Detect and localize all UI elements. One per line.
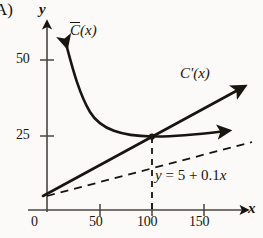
average-cost-symbol: C — [70, 23, 80, 38]
equation-variable: x — [220, 167, 227, 183]
average-cost-curve — [65, 40, 152, 137]
x-tick-label-100: 100 — [137, 215, 157, 229]
average-marginal-cost-figure: A) y x 50 — [0, 0, 263, 238]
average-cost-arg: (x) — [80, 22, 97, 38]
x-tick-label-0: 0 — [31, 215, 38, 229]
x-axis-label: x — [248, 201, 256, 216]
intersection-point-marker — [149, 133, 155, 139]
x-tick-label-150: 150 — [189, 215, 209, 229]
dashed-line-equation-label: y = 5 + 0.1x — [155, 168, 227, 183]
equation-rhs: 5 + 0.1 — [178, 167, 220, 183]
plot-canvas — [0, 0, 263, 238]
y-tick-label-25: 25 — [16, 128, 29, 142]
x-tick-label-50: 50 — [89, 215, 102, 229]
marginal-cost-line-label: C'(x) — [180, 66, 210, 81]
equation-lhs: y — [155, 167, 162, 183]
average-cost-curve-label: C(x) — [70, 23, 97, 38]
y-axis-label: y — [39, 2, 46, 17]
y-tick-label-50: 50 — [16, 52, 29, 66]
equation-operator: = — [165, 167, 173, 183]
